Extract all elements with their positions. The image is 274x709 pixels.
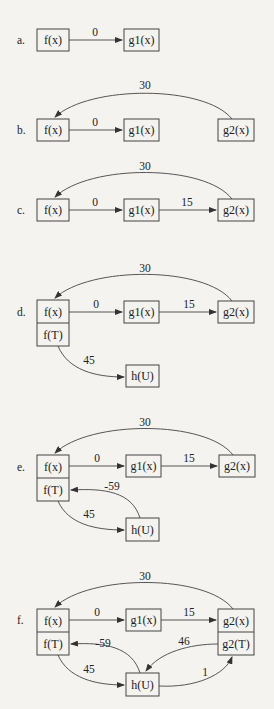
svg-text:0: 0 bbox=[94, 606, 100, 618]
node-f-x: f(x) bbox=[37, 29, 69, 51]
svg-text:1: 1 bbox=[202, 666, 208, 678]
svg-text:30: 30 bbox=[139, 262, 151, 274]
diagram-label: c. bbox=[17, 204, 25, 216]
svg-text:0: 0 bbox=[93, 298, 99, 310]
svg-text:30: 30 bbox=[139, 160, 151, 172]
node-g1-x: g1(x) bbox=[126, 609, 161, 631]
svg-text:0: 0 bbox=[92, 26, 98, 38]
svg-text:45: 45 bbox=[83, 354, 95, 366]
svg-text:h(U): h(U) bbox=[131, 523, 154, 537]
diagram-b: b. f(x) g1(x) g2(x) 0 30 bbox=[17, 79, 254, 141]
svg-text:g2(x): g2(x) bbox=[223, 123, 249, 137]
svg-text:h(U): h(U) bbox=[131, 369, 154, 383]
edge-g1-to-g2: 15 bbox=[159, 298, 216, 312]
node-g2: g2(x) g2(T) bbox=[218, 609, 254, 655]
svg-text:g2(x): g2(x) bbox=[224, 459, 250, 473]
edge-f-to-g1: 0 bbox=[69, 298, 122, 312]
node-g1-x: g1(x) bbox=[124, 29, 159, 51]
svg-text:-59: -59 bbox=[104, 480, 120, 492]
node-f-t: f(T) bbox=[43, 483, 62, 497]
svg-text:-59: -59 bbox=[95, 637, 111, 649]
diagram-label: f. bbox=[17, 614, 24, 626]
edge-g2-to-f: 30 bbox=[55, 262, 232, 301]
edge-g1-to-g2: 15 bbox=[161, 452, 217, 466]
diagram-d: d. f(x) f(T) g1(x) g2(x) h(U) 0 15 bbox=[17, 262, 254, 387]
svg-text:30: 30 bbox=[139, 570, 151, 582]
edge-g1-to-g2: 15 bbox=[159, 196, 216, 210]
svg-text:h(U): h(U) bbox=[131, 678, 154, 692]
node-g2-x: g2(x) bbox=[219, 455, 255, 477]
svg-text:g2(x): g2(x) bbox=[223, 305, 249, 319]
svg-text:g2(x): g2(x) bbox=[223, 203, 249, 217]
edge-g2-to-f: 30 bbox=[55, 416, 233, 455]
node-f-x: f(x) bbox=[44, 305, 62, 319]
node-h-u: h(U) bbox=[126, 673, 159, 696]
edge-ft-to-h: 45 bbox=[58, 655, 124, 685]
edge-g2-to-f: 30 bbox=[55, 160, 232, 199]
node-f-t: f(T) bbox=[43, 328, 62, 342]
diagram-e: e. f(x) f(T) g1(x) g2(x) h(U) 0 15 bbox=[17, 416, 255, 541]
svg-text:15: 15 bbox=[183, 298, 195, 310]
svg-text:f(x): f(x) bbox=[44, 123, 62, 137]
diagram-label: b. bbox=[17, 124, 26, 136]
svg-text:45: 45 bbox=[83, 508, 95, 520]
edge-f-to-g1: 0 bbox=[69, 606, 124, 620]
svg-text:0: 0 bbox=[94, 452, 100, 464]
node-g2-x: g2(x) bbox=[218, 199, 254, 221]
svg-text:g1(x): g1(x) bbox=[131, 613, 157, 627]
edge-f-to-g1: 0 bbox=[69, 116, 122, 130]
node-f-t: f(T) bbox=[43, 637, 62, 651]
svg-text:15: 15 bbox=[183, 606, 195, 618]
node-f: f(x) f(T) bbox=[37, 455, 69, 501]
svg-text:g1(x): g1(x) bbox=[129, 123, 155, 137]
diagram-label: a. bbox=[17, 34, 25, 46]
node-g1-x: g1(x) bbox=[124, 301, 159, 323]
edge-ft-to-h: 45 bbox=[58, 346, 124, 377]
svg-text:45: 45 bbox=[83, 663, 95, 675]
node-g2-x: g2(x) bbox=[218, 301, 254, 323]
edge-g2-to-f: 30 bbox=[55, 79, 232, 119]
svg-text:f(x): f(x) bbox=[44, 33, 62, 47]
svg-text:46: 46 bbox=[178, 635, 190, 647]
node-g1-x: g1(x) bbox=[124, 119, 159, 141]
svg-text:15: 15 bbox=[183, 452, 195, 464]
node-h-u: h(U) bbox=[126, 518, 159, 541]
diagram-label: e. bbox=[17, 461, 25, 473]
svg-text:30: 30 bbox=[139, 79, 151, 91]
node-f: f(x) f(T) bbox=[37, 300, 69, 346]
node-h-u: h(U) bbox=[126, 365, 159, 387]
svg-text:0: 0 bbox=[92, 116, 98, 128]
edge-h-to-ft: -59 bbox=[71, 480, 140, 518]
diagram-c: c. f(x) g1(x) g2(x) 0 15 30 bbox=[17, 160, 254, 221]
diagram-a: a. f(x) g1(x) 0 bbox=[17, 26, 159, 51]
node-f-x: f(x) bbox=[44, 614, 62, 628]
svg-text:0: 0 bbox=[92, 196, 98, 208]
node-g1-x: g1(x) bbox=[124, 199, 159, 221]
edge-g2-to-f: 30 bbox=[55, 570, 233, 609]
diagram-label: d. bbox=[17, 306, 26, 318]
svg-text:f(x): f(x) bbox=[44, 203, 62, 217]
edge-f-to-g1: 0 bbox=[69, 452, 124, 466]
svg-text:g1(x): g1(x) bbox=[129, 305, 155, 319]
node-f: f(x) f(T) bbox=[37, 609, 69, 655]
node-g2-x: g2(x) bbox=[223, 614, 249, 628]
edge-h-to-g2t: 1 bbox=[159, 657, 232, 686]
edge-ft-to-h: 45 bbox=[58, 501, 124, 530]
edge-h-to-ft: -59 bbox=[71, 637, 140, 673]
node-g2-x: g2(x) bbox=[218, 119, 254, 141]
edge-g1-to-g2: 15 bbox=[161, 606, 216, 620]
svg-text:g1(x): g1(x) bbox=[129, 33, 155, 47]
svg-text:30: 30 bbox=[139, 416, 151, 428]
svg-text:15: 15 bbox=[181, 196, 193, 208]
diagram-f: f. f(x) f(T) g1(x) g2(x) g2(T) h(U) 0 15 bbox=[17, 570, 254, 696]
edge-f-to-g1: 0 bbox=[69, 26, 122, 40]
node-f-x: f(x) bbox=[44, 460, 62, 474]
node-f-x: f(x) bbox=[37, 199, 69, 221]
constraint-graph-figure: a. f(x) g1(x) 0 b. f(x) g1(x) g2(x) bbox=[0, 0, 274, 709]
node-g1-x: g1(x) bbox=[126, 455, 161, 477]
svg-text:g1(x): g1(x) bbox=[131, 459, 157, 473]
svg-text:g1(x): g1(x) bbox=[129, 203, 155, 217]
node-f-x: f(x) bbox=[37, 119, 69, 141]
edge-f-to-g1: 0 bbox=[69, 196, 122, 210]
node-g2-t: g2(T) bbox=[222, 637, 249, 651]
